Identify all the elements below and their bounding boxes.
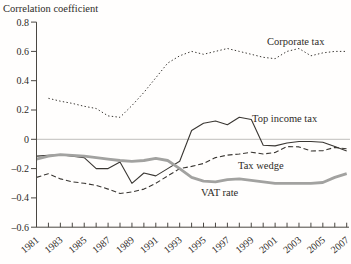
x-tick-label: 2005 [305,234,327,255]
y-tick-label: 0 [24,134,29,145]
y-tick-label: 0.6 [17,46,30,57]
corporate-tax-line [48,49,346,118]
y-tick-label: –0.2 [11,163,30,174]
vat-rate-label: VAT rate [201,187,239,198]
x-tick-label: 1997 [209,234,231,255]
chart-container: Correlation coefficient 0.80.60.40.20–0.… [0,0,351,264]
tax-wedge-line [37,147,347,194]
x-tick-label: 1985 [66,234,88,255]
y-tick-label: –0.4 [11,192,30,203]
y-axis: 0.80.60.40.20–0.2–0.4–0.6 [11,17,37,233]
y-tick-label: –0.6 [11,222,30,233]
x-tick-label: 1987 [90,234,112,255]
x-tick-label: 1983 [42,234,64,255]
top-income-tax-line [37,117,347,183]
x-tick-label: 2001 [257,234,279,255]
y-tick-label: 0.8 [17,17,30,28]
y-tick-label: 0.2 [17,104,30,115]
vat-rate-line [37,155,347,184]
x-tick-label: 1989 [114,234,136,255]
x-tick-label: 1999 [233,234,255,255]
x-tick-label: 1995 [185,234,207,255]
y-tick-label: 0.4 [17,75,30,86]
x-tick-label: 1981 [18,234,40,255]
chart-title: Correlation coefficient [3,3,98,14]
series-labels: Corporate taxTop income taxTax wedgeVAT … [201,36,325,198]
x-axis: 1981198319851987198919911993199519971999… [18,223,351,256]
correlation-chart: Correlation coefficient 0.80.60.40.20–0.… [0,0,351,264]
corporate-tax-label: Corporate tax [267,36,325,47]
tax-wedge-label: Tax wedge [238,160,284,171]
x-tick-label: 1993 [162,234,184,255]
x-tick-label: 1991 [138,234,160,255]
top-income-tax-label: Top income tax [252,113,318,124]
x-tick-label: 2003 [281,234,303,255]
x-tick-label: 2007 [329,234,351,255]
